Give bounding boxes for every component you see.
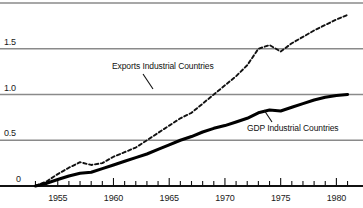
x-axis-tick-label: 1960 [93,194,133,203]
x-axis-tick-label: 1970 [205,194,245,203]
y-axis-tick-label: 0.5 [4,129,16,138]
chart-plot-area [0,0,363,208]
chart-container: 00.51.01.52.0 195519601965197019751980 E… [0,0,363,208]
series-exports-industrial-countries-line [35,15,347,186]
series-annotation-label: Exports Industrial Countries [112,62,214,71]
x-axis-tick-label: 1975 [261,194,301,203]
x-axis-tick-label: 1965 [149,194,189,203]
gridlines [0,3,363,140]
y-axis-tick-label: 2.0 [4,0,16,1]
series-annotation-label: GDP Industrial Countries [247,124,338,133]
x-axis-ticks [35,178,347,186]
x-axis-tick-label: 1955 [38,194,78,203]
y-axis-tick-label: 0 [16,175,21,184]
x-axis-tick-label: 1980 [316,194,356,203]
annotation-leader-line [143,74,153,89]
series-line [35,15,347,186]
y-axis-tick-label: 1.0 [4,84,16,93]
y-axis-tick-label: 1.5 [4,38,16,47]
